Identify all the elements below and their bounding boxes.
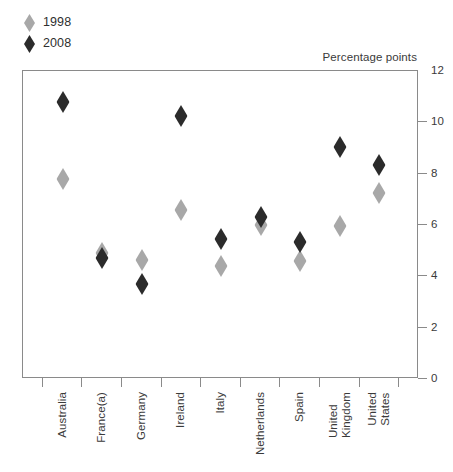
x-axis-tick-6 [240,378,241,387]
x-axis-tick-2 [81,378,82,387]
y-axis-tick-8 [418,173,427,174]
data-point-1998-7 [294,250,307,272]
y-axis-label-0: 0 [431,372,437,384]
diamond-marker-icon-2008 [24,35,35,53]
x-axis-label-7: Spain [293,392,306,422]
x-axis-label-wrap-9: United States [378,392,379,393]
x-axis-label-5: Italy [214,392,227,414]
x-axis-label-8: United Kingdom [326,392,351,438]
x-axis-tick-edge-1 [398,378,399,387]
legend-item-2008: 2008 [24,33,71,54]
legend-label-2008: 2008 [43,37,71,50]
x-axis-tick-3 [121,378,122,387]
data-point-2008-6 [254,206,267,228]
y-axis-label-8: 8 [431,167,437,179]
chart-legend: 1998 2008 [24,12,71,54]
data-point-1998-1 [56,168,69,190]
y-axis-label-4: 4 [431,269,437,281]
y-axis-tick-6 [418,224,427,225]
data-point-1998-5 [215,255,228,277]
diamond-marker-icon-1998 [24,14,35,32]
data-point-1998-9 [373,182,386,204]
y-axis-tick-12 [418,70,427,71]
data-point-2008-4 [175,105,188,127]
data-point-2008-8 [333,136,346,158]
x-axis-label-wrap-2: France(a) [101,392,102,393]
data-point-1998-8 [333,215,346,237]
y-axis-tick-2 [418,327,427,328]
x-axis-tick-edge-0 [42,378,43,387]
x-axis-label-wrap-7: Spain [299,392,300,393]
data-point-2008-9 [373,154,386,176]
legend-label-1998: 1998 [43,16,71,29]
x-axis-label-wrap-4: Ireland [180,392,181,393]
data-point-1998-3 [135,249,148,271]
y-axis-tick-10 [418,121,427,122]
x-axis-label-wrap-8: United Kingdom [339,392,340,393]
y-axis-label-2: 2 [431,321,437,333]
legend-item-1998: 1998 [24,12,71,33]
x-axis-tick-5 [200,378,201,387]
x-axis-label-9: United States [366,392,391,426]
data-point-2008-3 [135,273,148,295]
x-axis-tick-9 [359,378,360,387]
x-axis-label-4: Ireland [174,392,187,428]
x-axis-label-wrap-3: Germany [141,392,142,393]
data-point-2008-5 [215,228,228,250]
y-axis-label-10: 10 [431,115,444,127]
data-point-1998-4 [175,199,188,221]
x-axis-label-6: Netherlands [253,392,266,455]
x-axis-label-3: Germany [135,392,148,440]
y-axis-label-6: 6 [431,218,437,230]
y-axis-title: Percentage points [323,51,417,63]
data-point-2008-7 [294,231,307,253]
x-axis-label-wrap-1: Australia [62,392,63,393]
x-axis-label-wrap-6: Netherlands [260,392,261,393]
y-axis-tick-0 [418,378,427,379]
x-axis-label-2: France(a) [95,392,108,443]
y-axis-tick-4 [418,275,427,276]
x-axis-tick-4 [161,378,162,387]
x-axis-tick-8 [319,378,320,387]
x-axis-label-1: Australia [55,392,68,438]
plot-area [22,70,418,378]
data-point-2008-2 [96,247,109,269]
data-points-layer [23,71,417,377]
y-axis-label-12: 12 [431,64,444,76]
x-axis-tick-7 [279,378,280,387]
data-point-2008-1 [56,91,69,113]
x-axis-label-wrap-5: Italy [220,392,221,393]
